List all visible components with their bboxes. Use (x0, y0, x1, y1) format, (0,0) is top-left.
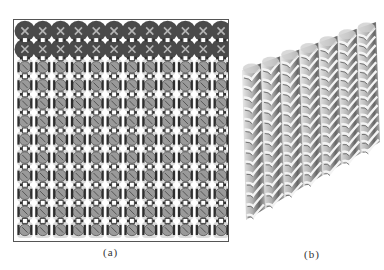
figure-panel-b (240, 20, 380, 225)
caption-a: (a) (103, 246, 118, 258)
figure-panel-a (13, 19, 229, 242)
caption-b: (b) (304, 248, 320, 260)
knit-structure-3d-image (240, 20, 380, 225)
lattice-pattern-image (14, 20, 228, 241)
